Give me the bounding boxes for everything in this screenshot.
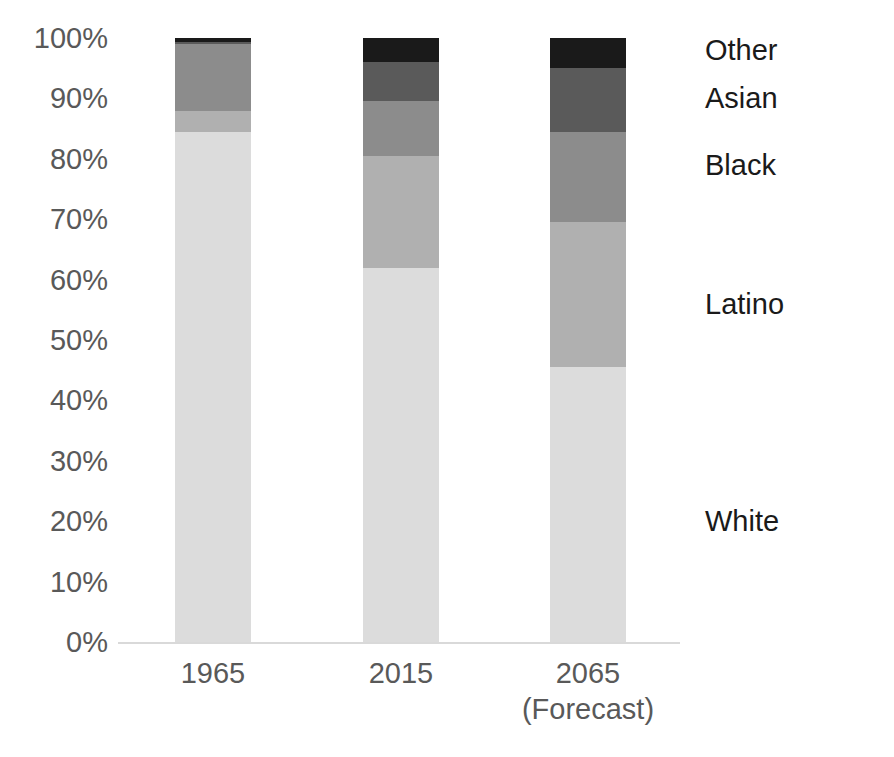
bar-segment-black[interactable]	[363, 101, 439, 155]
y-axis-tick-label: 20%	[0, 505, 108, 538]
x-axis-label-2065: 2065(Forecast)	[478, 655, 698, 728]
y-axis-tick-label: 90%	[0, 82, 108, 115]
legend: OtherAsianBlackLatinoWhite	[705, 38, 894, 642]
legend-label-other[interactable]: Other	[705, 34, 778, 67]
y-axis-tick-label: 100%	[0, 22, 108, 55]
bar-segment-black[interactable]	[175, 44, 251, 110]
y-axis-tick-label: 50%	[0, 324, 108, 357]
bar-segment-latino[interactable]	[550, 222, 626, 367]
y-axis-tick-label: 60%	[0, 263, 108, 296]
legend-label-latino[interactable]: Latino	[705, 287, 784, 320]
bar-stack-1965[interactable]	[175, 38, 251, 642]
x-axis-line	[118, 642, 680, 644]
legend-label-black[interactable]: Black	[705, 148, 776, 181]
x-axis-label-year: 1965	[181, 657, 246, 689]
bar-segment-white[interactable]	[175, 132, 251, 642]
chart-canvas: U.S. Population by Race/Ethnicity (1965–…	[0, 0, 894, 757]
bar-segment-white[interactable]	[550, 367, 626, 642]
legend-label-white[interactable]: White	[705, 505, 779, 538]
x-axis-label-sublabel: (Forecast)	[478, 691, 698, 727]
bar-segment-other[interactable]	[363, 38, 439, 62]
x-axis-label-1965: 1965	[103, 655, 323, 691]
y-axis-tick-label: 30%	[0, 444, 108, 477]
bar-stack-2065[interactable]	[550, 38, 626, 642]
y-axis-tick-label: 10%	[0, 565, 108, 598]
bar-segment-white[interactable]	[363, 268, 439, 642]
y-axis: 100%90%80%70%60%50%40%30%20%10%0%	[0, 38, 108, 642]
plot-area	[120, 38, 680, 642]
legend-label-asian[interactable]: Asian	[705, 82, 778, 115]
x-axis-label-year: 2015	[369, 657, 434, 689]
x-axis-label-year: 2065	[556, 657, 621, 689]
bar-segment-black[interactable]	[550, 132, 626, 223]
bar-segment-latino[interactable]	[175, 111, 251, 132]
bar-segment-latino[interactable]	[363, 156, 439, 268]
y-axis-tick-label: 0%	[0, 626, 108, 659]
y-axis-tick-label: 80%	[0, 142, 108, 175]
bar-stack-2015[interactable]	[363, 38, 439, 642]
y-axis-tick-label: 40%	[0, 384, 108, 417]
y-axis-tick-label: 70%	[0, 203, 108, 236]
bar-segment-other[interactable]	[550, 38, 626, 68]
bar-segment-asian[interactable]	[363, 62, 439, 101]
bar-segment-asian[interactable]	[550, 68, 626, 131]
